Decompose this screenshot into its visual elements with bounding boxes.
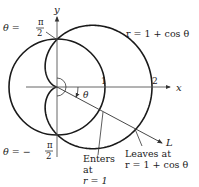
tick-2: 2 <box>152 76 158 86</box>
polar-diagram: y x 1 2 θ L r = 1 + cos θ θ = π 2 θ = − … <box>0 0 199 187</box>
theta-bottom-den: 2 <box>46 151 51 161</box>
theta-top-prefix: θ = <box>3 22 20 33</box>
line-L-label: L <box>165 137 173 148</box>
x-axis-label: x <box>176 82 182 93</box>
theta-label: θ <box>83 90 89 100</box>
theta-bottom-prefix: θ = − <box>3 146 31 157</box>
enters-line1: Enters <box>83 153 115 164</box>
theta-top-den: 2 <box>37 28 42 38</box>
leaves-line1: Leaves at <box>125 148 171 159</box>
leader-theta-top <box>46 32 56 39</box>
enters-line3: r = 1 <box>83 175 108 186</box>
enters-line2: at <box>83 164 93 175</box>
theta-top-num: π <box>38 17 44 27</box>
leaves-line2: r = 1 + cos θ <box>125 159 189 170</box>
theta-arc <box>76 87 78 97</box>
curve-label: r = 1 + cos θ <box>126 28 190 39</box>
y-axis-label: y <box>53 4 60 15</box>
theta-bottom-num: π <box>47 140 53 150</box>
tick-1: 1 <box>101 76 107 86</box>
